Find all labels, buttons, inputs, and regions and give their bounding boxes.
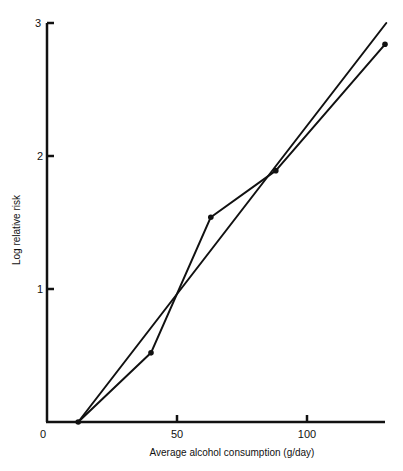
y-axis-label: Log relative risk: [11, 194, 22, 265]
x-tick-label-50: 50: [171, 428, 183, 440]
x-tick-label-100: 100: [298, 428, 316, 440]
tick-labels: 3 2 1 0 50 100: [35, 17, 316, 440]
fitted-trend-line: [78, 23, 386, 422]
chart: 3 2 1 0 50 100 Average alcohol consumpti…: [0, 0, 403, 471]
x-tick-label-0: 0: [40, 428, 46, 440]
plot-area: [78, 23, 386, 422]
y-tick-label-1: 1: [37, 283, 43, 295]
observed-line: [78, 44, 385, 422]
y-tick-label-3: 3: [35, 17, 41, 29]
data-point-marker: [208, 214, 214, 220]
axes: [46, 23, 385, 422]
data-point-marker: [75, 419, 81, 425]
x-axis-label: Average alcohol consumption (g/day): [150, 447, 315, 458]
data-point-marker: [382, 41, 388, 47]
data-point-marker: [273, 168, 279, 174]
y-tick-label-2: 2: [37, 150, 43, 162]
data-point-marker: [148, 350, 154, 356]
observed-markers: [75, 41, 387, 424]
